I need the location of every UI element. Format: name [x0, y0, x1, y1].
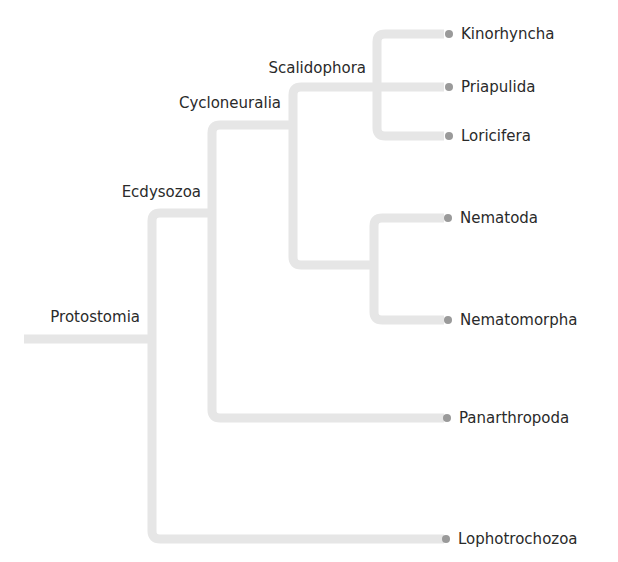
tip-panarthropoda: Panarthropoda: [443, 409, 569, 427]
node-label-ecdysozoa: Ecdysozoa: [122, 183, 201, 201]
tip-nematomorpha: Nematomorpha: [444, 311, 578, 329]
tip-kinorhyncha: Kinorhyncha: [445, 25, 554, 43]
tip-dot-icon: [445, 30, 453, 38]
tip-label: Panarthropoda: [459, 409, 569, 427]
branch-ecdysozoa: [212, 125, 444, 418]
branch-nematoida: [374, 218, 444, 320]
tip-label: Lophotrochozoa: [458, 530, 578, 548]
tip-dot-icon: [445, 132, 453, 140]
tip-label: Priapulida: [461, 78, 535, 96]
node-label-cycloneuralia: Cycloneuralia: [179, 94, 281, 112]
tip-label: Kinorhyncha: [461, 25, 554, 43]
branch-cycloneuralia: [293, 87, 444, 265]
tip-priapulida: Priapulida: [445, 78, 535, 96]
tip-label: Loricifera: [461, 127, 531, 145]
tip-label: Nematomorpha: [460, 311, 578, 329]
phylogenetic-tree: Protostomia Ecdysozoa Cycloneuralia Scal…: [0, 0, 618, 562]
tip-dot-icon: [442, 535, 450, 543]
tip-label: Nematoda: [460, 209, 538, 227]
tip-lophotrochozoa: Lophotrochozoa: [442, 530, 578, 548]
node-label-scalidophora: Scalidophora: [268, 59, 366, 77]
tip-dot-icon: [444, 214, 452, 222]
tip-dot-icon: [444, 316, 452, 324]
tip-nematoda: Nematoda: [444, 209, 538, 227]
tip-dot-icon: [443, 414, 451, 422]
tip-loricifera: Loricifera: [445, 127, 531, 145]
tip-dot-icon: [445, 83, 453, 91]
node-label-protostomia: Protostomia: [50, 308, 140, 326]
